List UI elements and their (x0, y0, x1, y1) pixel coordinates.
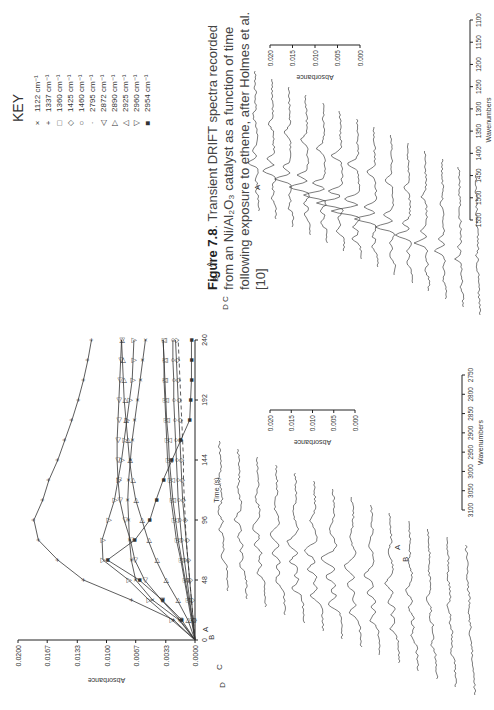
legend-label: 2872 cm⁻¹ (98, 75, 109, 112)
svg-text:·: · (176, 359, 183, 361)
svg-text:0.0100: 0.0100 (104, 645, 111, 667)
svg-text:◁: ◁ (114, 437, 121, 443)
svg-text:▽: ▽ (130, 357, 137, 363)
svg-text:▷: ▷ (119, 357, 126, 363)
svg-text:B: B (401, 557, 410, 562)
svg-text:2800: 2800 (467, 387, 474, 402)
svg-text:△: △ (163, 417, 170, 423)
svg-text:×: × (142, 338, 149, 342)
figure-caption: Figure 7.8. Transient DRIFT spectra reco… (205, 10, 269, 290)
svg-text:×: × (131, 418, 138, 422)
svg-text:×: × (134, 398, 141, 402)
svg-text:△: △ (161, 377, 168, 383)
svg-text:×: × (124, 498, 131, 502)
svg-text:+: + (88, 338, 95, 342)
legend-label: 2925 cm⁻¹ (120, 75, 131, 112)
svg-text:△: △ (165, 437, 172, 443)
svg-text:Absorbance: Absorbance (294, 439, 331, 446)
svg-text:A: A (393, 544, 402, 550)
svg-text:+: + (30, 518, 37, 522)
svg-text:▽: ▽ (130, 337, 137, 343)
svg-text:△: △ (166, 457, 173, 463)
legend-label: 1337 cm⁻¹ (43, 75, 54, 112)
legend-item: ·2795 cm⁻¹ (87, 75, 98, 128)
legend-item: ■2954 cm⁻¹ (142, 75, 153, 128)
svg-text:×: × (139, 358, 146, 362)
svg-text:▷: ▷ (129, 477, 136, 483)
legend-item: ×1122 cm⁻¹ (32, 75, 43, 128)
svg-text:1100: 1100 (475, 13, 482, 27)
svg-text:·: · (180, 479, 187, 481)
svg-text:2900: 2900 (467, 425, 474, 440)
svg-text:1400: 1400 (475, 146, 482, 161)
svg-text:0.005: 0.005 (334, 50, 341, 67)
svg-text:·: · (186, 579, 193, 581)
svg-text:◁: ◁ (127, 537, 134, 543)
svg-text:0.0133: 0.0133 (74, 645, 81, 667)
svg-text:192: 192 (201, 394, 208, 406)
legend-label: 1122 cm⁻¹ (32, 75, 43, 112)
svg-text:1450: 1450 (475, 168, 482, 183)
legend-item: ○1460 cm⁻¹ (76, 75, 87, 128)
svg-text:·: · (182, 519, 189, 521)
legend-marker-icon: ▽ (131, 118, 142, 128)
legend-item: ◁2872 cm⁻¹ (98, 75, 109, 128)
svg-text:·: · (183, 539, 190, 541)
svg-text:■: ■ (187, 398, 194, 402)
svg-text:·: · (178, 419, 185, 421)
legend-label: 1425 cm⁻¹ (65, 75, 76, 112)
svg-text:2750: 2750 (467, 367, 474, 382)
svg-text:2950: 2950 (467, 445, 474, 460)
svg-text:0.005: 0.005 (330, 415, 337, 432)
svg-text:◁: ◁ (158, 597, 165, 603)
svg-text:+: + (54, 458, 61, 462)
svg-text:0.020: 0.020 (267, 415, 274, 432)
legend-marker-icon: ○ (76, 118, 87, 128)
legend-label: 2954 cm⁻¹ (142, 75, 153, 112)
svg-text:▷: ▷ (120, 377, 127, 383)
legend-marker-icon: ◇ (65, 118, 76, 128)
svg-text:▽: ▽ (168, 617, 175, 623)
svg-text:3100: 3100 (467, 502, 474, 517)
svg-text:3050: 3050 (467, 483, 474, 498)
svg-text:1300: 1300 (475, 101, 482, 116)
svg-text:▷: ▷ (162, 577, 169, 583)
svg-text:△: △ (161, 357, 168, 363)
svg-text:+: + (54, 558, 61, 562)
svg-text:A: A (201, 626, 210, 632)
svg-text:▽: ▽ (129, 377, 136, 383)
svg-text:Absorbance: Absorbance (88, 677, 125, 684)
svg-text:▽: ▽ (125, 577, 132, 583)
svg-text:C: C (215, 664, 224, 670)
svg-text:0.015: 0.015 (289, 50, 296, 67)
svg-text:·: · (184, 559, 191, 561)
svg-text:1350: 1350 (475, 124, 482, 139)
svg-text:0.015: 0.015 (288, 415, 295, 432)
svg-text:▷: ▷ (124, 437, 131, 443)
svg-text:◁: ◁ (121, 517, 128, 523)
svg-text:1550: 1550 (475, 212, 482, 227)
svg-text:D C: D C (221, 296, 230, 310)
legend-item: ▽2960 cm⁻¹ (131, 75, 142, 128)
svg-text:0.0167: 0.0167 (44, 645, 51, 667)
svg-text:0.0067: 0.0067 (133, 645, 140, 667)
svg-text:+: + (61, 438, 68, 442)
svg-text:◁: ◁ (131, 557, 138, 563)
svg-text:·: · (180, 459, 187, 461)
svg-text:0.0000: 0.0000 (192, 645, 199, 667)
svg-text:·: · (179, 439, 186, 441)
svg-text:▷: ▷ (174, 597, 181, 603)
svg-text:▷: ▷ (132, 497, 139, 503)
svg-text:+: + (35, 538, 42, 542)
legend-marker-icon: ■ (142, 118, 153, 128)
svg-text:1500: 1500 (475, 190, 482, 205)
svg-text:·: · (177, 399, 184, 401)
ch-stretch-spectra-panel: 31003050300029502900285028002750Wavenumb… (201, 367, 484, 695)
svg-text:·: · (190, 619, 197, 621)
svg-text:0.000: 0.000 (352, 415, 359, 432)
svg-text:■: ■ (153, 498, 160, 502)
svg-text:◁: ◁ (176, 617, 183, 623)
legend-item: ◇1425 cm⁻¹ (65, 75, 76, 128)
legend-label: 1360 cm⁻¹ (54, 75, 65, 112)
svg-text:▷: ▷ (145, 537, 152, 543)
